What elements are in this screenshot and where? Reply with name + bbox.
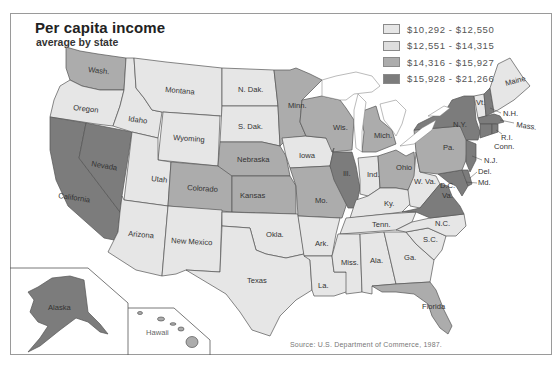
label-okla: Okla.	[266, 230, 284, 239]
legend-swatch-2	[383, 41, 400, 51]
label-la: La.	[318, 281, 329, 290]
island-molokai	[170, 323, 176, 326]
state-r-i[interactable]	[492, 124, 498, 134]
label-kansas: Kansas	[240, 191, 266, 200]
label-md: Md.	[478, 178, 491, 187]
inset-alaska[interactable]: Alaska	[10, 268, 128, 355]
label-r-i: R.I.	[501, 133, 513, 142]
legend-item-4: $15,928 - $21,266	[383, 71, 494, 88]
source-note: Source: U.S. Department of Commerce, 198…	[290, 341, 442, 348]
label-mich: Mich.	[374, 131, 392, 140]
legend-swatch-1	[383, 24, 400, 34]
label-mass: Mass.	[516, 120, 537, 132]
label-vt: Vt.	[476, 98, 485, 107]
label-nebraska: Nebraska	[237, 155, 270, 164]
label-ky: Ky.	[384, 199, 394, 208]
label-ill: Ill.	[343, 169, 351, 178]
legend-label-1: $10,292 - $12,550	[407, 24, 494, 35]
inset-hawaii[interactable]: Hawaii	[128, 308, 210, 355]
label-texas: Texas	[247, 276, 267, 285]
island-hawaii	[186, 337, 198, 348]
label-hawaii: Hawaii	[146, 328, 169, 337]
label-s-dak: S. Dak.	[238, 122, 263, 131]
label-ohio: Ohio	[396, 163, 412, 172]
label-conn: Conn.	[494, 142, 514, 151]
label-n-j: N.J.	[484, 156, 498, 165]
island-kauai	[138, 312, 143, 315]
legend-label-2: $12,551 - $14,315	[407, 40, 494, 51]
label-florida: Florida	[422, 302, 446, 311]
label-d-c: D.C.	[440, 181, 455, 190]
label-ala: Ala.	[370, 256, 383, 265]
legend-label-3: $14,316 - $15,927	[407, 57, 494, 68]
legend-swatch-4	[383, 74, 400, 84]
label-va: Va.	[442, 191, 453, 200]
label-n-dak: N. Dak.	[238, 85, 263, 94]
label-minn: Minn.	[288, 101, 307, 110]
label-miss: Miss.	[341, 258, 359, 267]
legend-item-3: $14,316 - $15,927	[383, 54, 494, 71]
label-iowa: Iowa	[299, 151, 316, 160]
label-pa: Pa.	[443, 143, 454, 152]
legend-item-2: $12,551 - $14,315	[383, 38, 494, 55]
state-n-j[interactable]	[466, 140, 476, 172]
label-mo: Mo.	[315, 196, 328, 205]
island-oahu	[158, 317, 165, 321]
label-s-c: S.C.	[423, 235, 438, 244]
label-n-c: N.C.	[435, 219, 450, 228]
label-del: Del.	[478, 167, 492, 176]
label-utah: Utah	[151, 174, 168, 185]
label-ind: Ind.	[367, 170, 380, 179]
state-alaska	[28, 276, 108, 352]
legend-swatch-3	[383, 57, 400, 67]
legend-label-4: $15,928 - $21,266	[407, 73, 494, 84]
state-conn[interactable]	[480, 124, 492, 138]
legend-item-1: $10,292 - $12,550	[383, 21, 494, 38]
label-n-y: N.Y.	[453, 120, 467, 129]
label-ark: Ark.	[315, 239, 329, 248]
label-wis: Wis.	[333, 123, 348, 132]
label-tenn: Tenn.	[372, 220, 391, 229]
label-w-va: W. Va.	[414, 177, 436, 186]
label-ga: Ga.	[404, 253, 416, 262]
label-alaska: Alaska	[48, 303, 72, 312]
label-n-h: N.H.	[503, 109, 518, 118]
island-maui	[178, 327, 184, 331]
legend: $10,292 - $12,550 $12,551 - $14,315 $14,…	[383, 21, 494, 87]
